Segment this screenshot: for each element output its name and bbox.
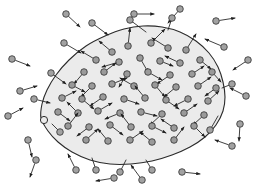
velocity-vector [68,154,74,167]
particle-dot [149,139,156,146]
velocity-vector [233,62,245,70]
velocity-vector [205,39,220,45]
particle-dot [124,71,131,78]
particle-dot [89,20,96,27]
particle-dot [121,96,128,103]
particle-dot [137,55,144,62]
particle-dot [69,82,76,89]
outside-particle [5,108,23,119]
particle-dot [177,60,184,67]
velocity-vector [131,165,140,177]
outside-particle [96,175,117,182]
particle-dot [73,167,80,174]
particle-dot [149,123,156,130]
particle-dot [33,157,40,164]
outside-particle [213,18,235,25]
particle-dot [127,17,134,24]
velocity-vector [16,60,30,66]
velocity-vector [29,144,32,157]
particle-dot [93,167,100,174]
particle-dot [105,138,112,145]
velocity-vector [220,18,235,20]
particle-dot [142,95,149,102]
particle-dot [81,69,88,76]
velocity-vector [69,17,80,27]
boundary-notch [40,116,47,123]
outside-particle [17,86,37,94]
particle-dot [148,40,155,47]
particle-dot [197,57,204,64]
particle-dot [79,96,86,103]
particle-dot [171,125,178,132]
particle-dot [181,110,188,117]
particle-dot [145,69,152,76]
particle-dot [139,177,146,184]
figure-root [0,0,256,191]
outside-particle [61,40,81,53]
outside-particle [30,157,39,177]
particle-dot [138,109,145,116]
particle-dot [31,96,38,103]
particle-dot [167,72,174,79]
particle-dot [131,11,138,18]
particle-dot [201,112,208,119]
velocity-vector [24,86,37,90]
particle-dot [57,129,64,136]
particle-dot [209,69,216,76]
particle-dot [243,93,250,100]
particle-dot [9,56,16,63]
particle-dot [25,137,32,144]
particle-dot [61,40,68,47]
particle-dot [237,121,244,128]
particle-dot [163,97,170,104]
particle-dot [195,83,202,90]
particle-dot [159,111,166,118]
particle-dot [111,175,118,182]
outside-particle [131,11,154,18]
velocity-vector [95,25,108,35]
particle-dot [109,49,116,56]
particle-dot [221,44,228,51]
particle-dot [107,122,114,129]
outside-particle [89,20,108,35]
velocity-vector [30,164,35,177]
particle-dot [95,108,102,115]
velocity-vector [11,108,23,114]
velocity-vector [215,140,228,145]
particle-dot [83,137,90,144]
particle-dot [213,85,220,92]
particle-dot [117,169,124,176]
particle-dot [127,137,134,144]
particle-dot [101,69,108,76]
particle-dot [63,11,70,18]
outside-particle [9,56,30,66]
particle-dot [59,95,66,102]
particle-dot [177,6,184,13]
particle-dot [100,94,107,101]
outside-particle [25,137,32,157]
particle-dot [149,167,156,174]
particle-dot [171,137,178,144]
particle-dot [65,123,72,130]
velocity-vector [230,88,243,94]
particle-dot [89,83,96,90]
outside-particle [179,169,200,176]
particle-dot [128,124,135,131]
particle-dot [165,45,172,52]
particle-dot [207,127,214,134]
outside-particle [233,57,251,70]
particle-dot [169,15,176,22]
particle-dot [173,84,180,91]
particle-dot [131,83,138,90]
particle-dot [93,57,100,64]
particle-dot [125,43,132,50]
velocity-vector [67,45,81,53]
outside-particle [131,165,145,183]
velocity-vector [186,172,200,174]
outside-particle [215,140,235,149]
outside-particle [230,88,249,99]
particle-dot [213,18,220,25]
particle-dot [179,169,186,176]
particle-dot [205,98,212,105]
particle-dot [229,81,236,88]
